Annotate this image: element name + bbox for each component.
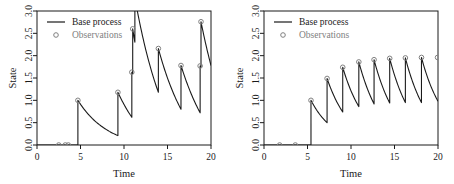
legend-label-base-process: Base process [299,17,349,27]
left-panel-plot: 051015200.00.51.01.52.02.53.0TimeStateBa… [0,0,227,184]
y-tick-label: 0.0 [24,139,34,151]
x-tick-label: 5 [305,152,310,162]
x-axis: 05101520 [35,145,216,162]
legend-point-swatch [281,33,286,38]
y-tick-label: 2.0 [251,49,261,61]
right-panel: 051015200.00.51.01.52.02.53.0TimeStateBa… [227,0,454,184]
base-process-line [264,57,438,145]
x-tick-label: 15 [390,152,400,162]
y-tick-label: 3.0 [251,5,261,17]
legend-point-swatch [54,33,59,38]
right-panel-plot: 051015200.00.51.01.52.02.53.0TimeStateBa… [227,0,454,184]
y-tick-label: 0.0 [251,139,261,151]
y-tick-label: 2.0 [24,49,34,61]
y-tick-label: 0.5 [251,116,261,128]
x-tick-label: 10 [119,152,129,162]
x-axis: 05101520 [262,145,443,162]
x-tick-label: 20 [206,152,216,162]
x-tick-label: 0 [262,152,267,162]
x-tick-label: 20 [433,152,443,162]
y-tick-label: 1.5 [251,72,261,84]
axis-frame [264,11,438,145]
left-panel: 051015200.00.51.01.52.02.53.0TimeStateBa… [0,0,227,184]
x-tick-label: 5 [78,152,83,162]
x-tick-label: 10 [346,152,356,162]
legend: Base processObservations [47,17,122,40]
x-axis-title: Time [113,168,135,179]
legend: Base processObservations [274,17,349,40]
legend-label-observations: Observations [72,30,122,40]
y-tick-label: 0.5 [24,116,34,128]
x-axis-title: Time [340,168,362,179]
x-tick-label: 0 [35,152,40,162]
y-tick-label: 2.5 [24,27,34,39]
y-axis-title: State [7,67,18,88]
y-tick-label: 2.5 [251,27,261,39]
legend-label-observations: Observations [299,30,349,40]
y-tick-label: 1.5 [24,72,34,84]
y-tick-label: 3.0 [24,5,34,17]
y-axis: 0.00.51.01.52.02.53.0 [24,5,37,151]
legend-label-base-process: Base process [72,17,122,27]
y-tick-label: 1.0 [251,94,261,106]
figure-container: 051015200.00.51.01.52.02.53.0TimeStateBa… [0,0,454,184]
y-tick-label: 1.0 [24,94,34,106]
x-tick-label: 15 [163,152,173,162]
y-axis-title: State [234,67,245,88]
y-axis: 0.00.51.01.52.02.53.0 [251,5,264,151]
